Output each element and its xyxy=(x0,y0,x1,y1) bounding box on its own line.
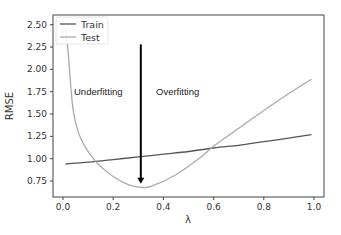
x-tick-label: 0.4 xyxy=(156,202,171,212)
y-tick-label: 1.75 xyxy=(27,87,47,97)
annotation-underfitting: Underfitting xyxy=(74,86,123,97)
y-tick-label: 0.75 xyxy=(27,176,47,186)
x-tick-label: 1.0 xyxy=(307,202,322,212)
x-tick-label: 0.0 xyxy=(56,202,71,212)
x-tick-label: 0.2 xyxy=(106,202,120,212)
x-axis-label: λ xyxy=(185,214,191,225)
x-tick-label: 0.6 xyxy=(206,202,221,212)
plot-lines xyxy=(66,28,312,187)
x-axis-ticks: 0.00.20.40.60.81.0 xyxy=(56,197,322,212)
y-axis-label: RMSE xyxy=(4,92,15,120)
legend: Train Test xyxy=(56,17,108,44)
y-tick-label: 2.25 xyxy=(27,42,47,52)
legend-train-label: Train xyxy=(80,19,104,30)
arrow-icon xyxy=(137,44,144,183)
legend-test-label: Test xyxy=(80,32,100,43)
x-tick-label: 0.8 xyxy=(257,202,272,212)
y-tick-label: 2.00 xyxy=(27,64,47,74)
y-tick-label: 2.50 xyxy=(27,20,47,30)
y-axis-ticks: 0.751.001.251.501.752.002.252.50 xyxy=(27,20,53,186)
series-train-line xyxy=(66,135,312,164)
y-tick-label: 1.50 xyxy=(27,109,47,119)
series-test-line xyxy=(66,28,312,187)
chart: 0.00.20.40.60.81.0 0.751.001.251.501.752… xyxy=(0,0,341,235)
annotation-overfitting: Overfitting xyxy=(156,86,199,97)
y-tick-label: 1.00 xyxy=(27,154,47,164)
y-tick-label: 1.25 xyxy=(27,131,47,141)
